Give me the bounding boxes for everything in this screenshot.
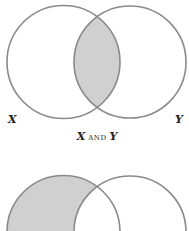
caption-right-operand: Y [109, 130, 117, 143]
venn-intersection-graphic [0, 0, 189, 150]
set-label-x: X [8, 114, 17, 125]
caption-left-operand: X [77, 130, 86, 143]
venn-difference-graphic [0, 170, 189, 231]
venn-diagram-intersection: X Y XandY [0, 0, 189, 150]
venn-diagram-difference [0, 170, 189, 231]
set-label-y: Y [175, 114, 183, 125]
diagram-caption: XandY [77, 131, 118, 142]
caption-operator: and [88, 131, 106, 142]
